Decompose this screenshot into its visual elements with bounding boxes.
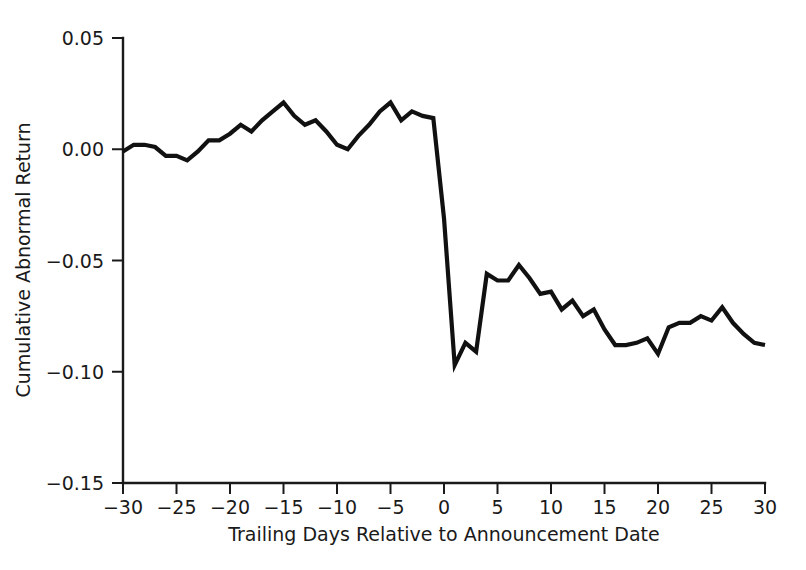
x-tick-label: 0 <box>438 496 450 518</box>
plot-background <box>0 0 806 570</box>
chart-container: 0.050.00−0.05−0.10−0.15 −30−25−20−15−10−… <box>0 0 806 570</box>
x-tick-label: 20 <box>646 496 670 518</box>
y-tick-label: −0.15 <box>46 472 104 494</box>
x-tick-label: 25 <box>699 496 723 518</box>
x-tick-label: −30 <box>103 496 143 518</box>
x-tick-label: 30 <box>753 496 777 518</box>
x-tick-label: −25 <box>156 496 196 518</box>
cumulative-abnormal-return-line-chart: 0.050.00−0.05−0.10−0.15 −30−25−20−15−10−… <box>0 0 806 570</box>
y-tick-label: −0.05 <box>46 250 104 272</box>
y-axis-title: Cumulative Abnormal Return <box>12 122 34 397</box>
x-tick-label: 15 <box>592 496 616 518</box>
x-tick-label: −5 <box>376 496 404 518</box>
x-axis-title: Trailing Days Relative to Announcement D… <box>227 523 660 545</box>
x-tick-label: −10 <box>317 496 357 518</box>
y-tick-label: −0.10 <box>46 361 104 383</box>
x-tick-label: 5 <box>491 496 503 518</box>
x-tick-label: −15 <box>263 496 303 518</box>
y-tick-label: 0.05 <box>62 27 104 49</box>
x-tick-label: −20 <box>210 496 250 518</box>
y-tick-label: 0.00 <box>62 138 104 160</box>
x-tick-label: 10 <box>539 496 563 518</box>
